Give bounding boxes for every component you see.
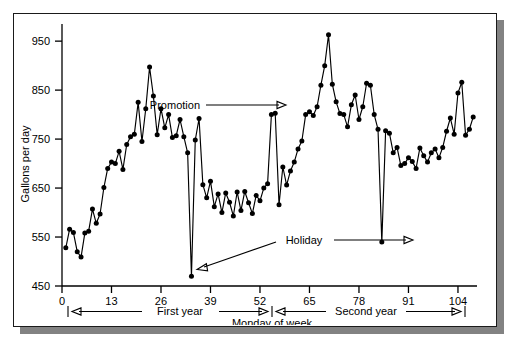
data-point	[246, 200, 251, 205]
data-point	[231, 213, 236, 218]
data-point	[372, 112, 377, 117]
data-point	[341, 112, 346, 117]
data-point	[254, 193, 259, 198]
data-point	[120, 167, 125, 172]
data-point	[292, 160, 297, 165]
data-point	[440, 145, 445, 150]
data-point	[296, 146, 301, 151]
data-point	[349, 102, 354, 107]
data-point	[155, 132, 160, 137]
data-point	[75, 249, 80, 254]
data-point	[67, 227, 72, 232]
data-point	[433, 146, 438, 151]
y-tick-label-750: 750	[32, 133, 50, 145]
x-axis-caption: Monday of week	[232, 317, 313, 325]
data-point	[193, 138, 198, 143]
data-point	[417, 145, 422, 150]
x-tick-label-65: 65	[303, 295, 315, 307]
data-point	[311, 113, 316, 118]
x-tick-group: 013263952657891104	[59, 286, 467, 307]
data-point	[280, 165, 285, 170]
data-point	[98, 212, 103, 217]
data-point	[273, 111, 278, 116]
data-point	[318, 83, 323, 88]
data-point	[250, 211, 255, 216]
x-tick-label-104: 104	[449, 295, 467, 307]
y-axis-title: Gallons per day	[19, 125, 31, 203]
data-point	[90, 207, 95, 212]
data-point	[307, 109, 312, 114]
data-point	[299, 139, 304, 144]
holiday-arrow-left-shaft	[204, 242, 276, 267]
x-tick-label-39: 39	[204, 295, 216, 307]
data-point	[387, 131, 392, 136]
data-point	[166, 112, 171, 117]
data-point	[277, 202, 282, 207]
data-point	[410, 159, 415, 164]
data-point	[136, 100, 141, 105]
data-point	[143, 106, 148, 111]
data-point	[436, 155, 441, 160]
data-point	[429, 150, 434, 155]
data-point	[113, 161, 118, 166]
x-axis: 013263952657891104	[59, 286, 477, 307]
x-tick-label-52: 52	[254, 295, 266, 307]
data-point	[162, 125, 167, 130]
data-point	[391, 150, 396, 155]
data-point	[452, 132, 457, 137]
holiday-arrow-left-head	[197, 264, 208, 271]
data-point	[326, 32, 331, 37]
data-point	[455, 91, 460, 96]
data-point	[265, 181, 270, 186]
data-point	[105, 166, 110, 171]
first-year-label: First year	[157, 305, 203, 317]
data-point	[315, 104, 320, 109]
data-point	[227, 200, 232, 205]
data-point	[406, 155, 411, 160]
line-chart: 450550650750850950 013263952657891104 Ga…	[14, 14, 495, 325]
data-point	[124, 142, 129, 147]
data-point	[356, 117, 361, 122]
y-tick-label-650: 650	[32, 182, 50, 194]
second-year-label: Second year	[335, 305, 397, 317]
y-tick-label-850: 850	[32, 84, 50, 96]
data-point	[467, 127, 472, 132]
y-tick-label-550: 550	[32, 231, 50, 243]
data-point	[242, 189, 247, 194]
data-point	[178, 117, 183, 122]
data-point	[330, 82, 335, 87]
data-point	[448, 116, 453, 121]
data-point	[204, 195, 209, 200]
data-point	[322, 63, 327, 68]
data-point	[200, 182, 205, 187]
data-point	[444, 129, 449, 134]
data-point	[414, 166, 419, 171]
y-axis: 450550650750850950	[32, 24, 62, 292]
data-point	[86, 229, 91, 234]
promotion-label: Promotion	[150, 99, 200, 111]
data-series	[63, 32, 475, 278]
data-point	[257, 198, 262, 203]
data-point	[471, 115, 476, 120]
x-tick-label-91: 91	[402, 295, 414, 307]
y-tick-group: 450550650750850950	[32, 35, 62, 292]
data-point	[463, 133, 468, 138]
data-point	[360, 104, 365, 109]
figure-root: 450550650750850950 013263952657891104 Ga…	[0, 0, 518, 350]
data-point	[212, 204, 217, 209]
data-point	[261, 186, 266, 191]
span-first-year: First year	[68, 305, 272, 317]
data-point	[223, 190, 228, 195]
data-point	[425, 160, 430, 165]
data-point	[219, 210, 224, 215]
data-point	[132, 132, 137, 137]
y-tick-label-450: 450	[32, 280, 50, 292]
data-point	[197, 116, 202, 121]
data-point	[235, 189, 240, 194]
data-point	[94, 221, 99, 226]
data-point	[376, 127, 381, 132]
data-point	[117, 149, 122, 154]
y-tick-label-950: 950	[32, 35, 50, 47]
data-point	[395, 145, 400, 150]
annotation-holiday: Holiday	[197, 234, 413, 271]
